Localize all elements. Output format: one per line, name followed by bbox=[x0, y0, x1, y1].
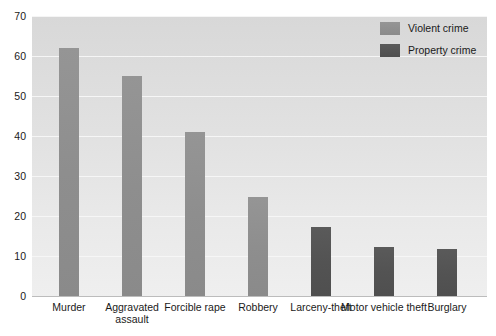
x-axis-line bbox=[32, 296, 487, 297]
y-tick-50: 50 bbox=[0, 91, 26, 102]
bar-motor-vehicle-theft bbox=[374, 247, 394, 297]
legend-item-violent-crime: Violent crime bbox=[380, 22, 476, 35]
y-tick-0: 0 bbox=[0, 291, 26, 302]
gridline-50 bbox=[32, 96, 487, 97]
x-tick-burglary: Burglary bbox=[404, 301, 490, 313]
gridline-30 bbox=[32, 176, 487, 177]
gridline-70 bbox=[32, 16, 487, 17]
legend-label-violent-crime: Violent crime bbox=[408, 23, 469, 34]
bar-murder bbox=[59, 48, 79, 297]
y-tick-70: 70 bbox=[0, 11, 26, 22]
bar-burglary bbox=[437, 249, 457, 297]
gridline-40 bbox=[32, 136, 487, 137]
legend-label-property-crime: Property crime bbox=[408, 45, 476, 56]
bar-chart: 70 60 50 40 30 20 10 0 Murder Aggravated… bbox=[0, 0, 496, 336]
chart-legend: Violent crime Property crime bbox=[380, 22, 476, 66]
bar-aggravated-assault bbox=[122, 76, 142, 297]
legend-item-property-crime: Property crime bbox=[380, 44, 476, 57]
y-tick-20: 20 bbox=[0, 211, 26, 222]
legend-swatch-icon-property-crime bbox=[380, 44, 400, 57]
bar-robbery bbox=[248, 197, 268, 297]
y-tick-40: 40 bbox=[0, 131, 26, 142]
y-axis: 70 60 50 40 30 20 10 0 bbox=[0, 0, 28, 336]
legend-swatch-icon-violent-crime bbox=[380, 22, 400, 35]
y-tick-60: 60 bbox=[0, 51, 26, 62]
y-tick-30: 30 bbox=[0, 171, 26, 182]
y-tick-10: 10 bbox=[0, 251, 26, 262]
bar-forcible-rape bbox=[185, 132, 205, 297]
bar-larceny-theft bbox=[311, 227, 331, 297]
